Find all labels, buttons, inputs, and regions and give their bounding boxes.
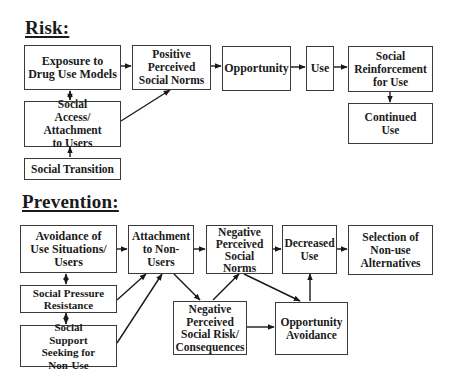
node-label: Negative Perceived Social Norms <box>209 226 270 274</box>
node-negative-perceived-social-norms: Negative Perceived Social Norms <box>206 225 273 274</box>
node-label: Social Pressure Resistance <box>31 287 106 311</box>
arrow-negative-norms-to-opportunity-avoidance <box>244 274 300 301</box>
arrow-attachment-to-negative-risk <box>174 274 200 300</box>
node-label: Social Reinforcement for Use <box>351 50 430 89</box>
node-label: Avoidance of Use Situations/ Users <box>29 230 108 269</box>
node-opportunity: Opportunity <box>222 46 291 91</box>
node-use: Use <box>306 46 334 91</box>
arrow-support-to-attachment <box>117 274 162 343</box>
arrow-pressure-to-attachment <box>117 274 146 300</box>
node-selection-of-non-use-alternatives: Selection of Non-use Alternatives <box>348 225 433 275</box>
prevention-title: Prevention: <box>22 191 119 213</box>
node-social-access-attachment-to-users: Social Access/ Attachment to Users <box>24 101 121 147</box>
node-continued-use: Continued Use <box>348 103 433 144</box>
node-label: Selection of Non-use Alternatives <box>359 231 422 270</box>
node-label: Social Transition <box>31 163 114 176</box>
node-social-transition: Social Transition <box>24 158 121 180</box>
node-label: Use <box>311 62 330 75</box>
node-label: Social Support Seeking for Non-Use <box>37 321 100 371</box>
arrow-negative-risk-to-negative-norms <box>213 274 239 300</box>
node-negative-perceived-social-risk: Negative Perceived Social Risk/ Conseque… <box>173 301 247 355</box>
node-social-pressure-resistance: Social Pressure Resistance <box>20 285 117 313</box>
node-label: Decreased Use <box>283 237 336 263</box>
node-label: Negative Perceived Social Risk/ Conseque… <box>174 303 246 353</box>
node-label: Opportunity <box>224 62 289 75</box>
node-label: Exposure to Drug Use Models <box>27 55 118 81</box>
node-positive-perceived-social-norms: Positive Perceived Social Norms <box>132 45 211 90</box>
node-avoidance-of-use-situations: Avoidance of Use Situations/ Users <box>20 225 117 273</box>
node-label: Social Access/ Attachment to Users <box>39 98 106 150</box>
risk-title: Risk: <box>25 17 69 39</box>
arrow-access-to-positive-norms <box>121 90 170 121</box>
node-label: Opportunity Avoidance <box>276 316 347 342</box>
node-label: Positive Perceived Social Norms <box>135 48 208 87</box>
node-decreased-use: Decreased Use <box>282 225 337 274</box>
node-attachment-to-non-users: Attachment to Non-Users <box>128 225 194 274</box>
node-exposure-to-drug-use-models: Exposure to Drug Use Models <box>24 45 121 90</box>
node-opportunity-avoidance: Opportunity Avoidance <box>275 302 348 355</box>
node-label: Attachment to Non-Users <box>129 230 193 269</box>
node-social-reinforcement-for-use: Social Reinforcement for Use <box>348 46 433 92</box>
node-label: Continued Use <box>365 111 417 137</box>
node-social-support-seeking: Social Support Seeking for Non-Use <box>20 325 117 367</box>
